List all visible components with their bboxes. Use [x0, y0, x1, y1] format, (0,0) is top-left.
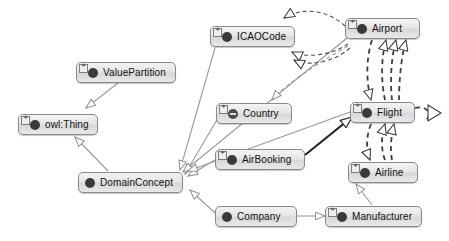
class-node-label: Country — [243, 108, 279, 119]
edge-flight-airline-3 — [391, 124, 394, 160]
owl-class-icon — [88, 68, 98, 78]
class-node-label: DomainConcept — [100, 177, 173, 188]
class-node-label: Airline — [375, 167, 404, 178]
edge-domainconcept-owlthing — [75, 137, 108, 171]
edge-manufacturer-airline — [356, 184, 372, 205]
edge-flight-self-loop — [415, 107, 429, 121]
edge-airport-flight-3 — [391, 40, 396, 100]
edge-icaocode-domainconcept — [180, 48, 215, 170]
expand-icon[interactable] — [353, 104, 362, 113]
class-node-manufacturer[interactable]: Manufacturer — [325, 206, 422, 227]
owl-class-icon — [357, 24, 367, 34]
owl-class-icon — [362, 108, 372, 118]
class-node-label: ValuePartition — [103, 67, 166, 78]
expand-icon[interactable] — [348, 20, 357, 29]
owl-class-icon — [222, 212, 232, 222]
owl-defined-class-icon — [228, 109, 238, 119]
edge-airport-country — [272, 46, 348, 100]
class-node-country[interactable]: Country — [216, 103, 292, 124]
expand-icon[interactable] — [218, 151, 227, 160]
owl-class-icon — [337, 212, 347, 222]
edge-airport-flight-1 — [367, 40, 372, 100]
class-node-label: Airport — [372, 23, 402, 34]
owl-class-icon — [30, 120, 40, 130]
expand-icon[interactable] — [79, 64, 88, 73]
owl-class-icon — [222, 32, 232, 42]
class-node-label: AirBooking — [242, 154, 291, 165]
expand-icon[interactable] — [328, 208, 337, 217]
edge-flight-airline-1 — [367, 124, 371, 160]
edge-airport-flight-2 — [382, 40, 386, 100]
class-node-owlthing[interactable]: owl:Thing — [18, 114, 98, 135]
edge-flight-airline-2 — [382, 124, 385, 160]
edge-airport-flight-4 — [399, 40, 406, 100]
class-node-label: owl:Thing — [45, 119, 89, 130]
expand-icon[interactable] — [219, 105, 228, 114]
class-node-airport[interactable]: Airport — [345, 18, 420, 39]
class-node-flight[interactable]: Flight — [350, 102, 415, 123]
ontology-diagram-canvas[interactable]: ICAOCode Airport ValuePartition Country … — [0, 0, 449, 241]
edge-company-domainconcept — [190, 190, 215, 213]
expand-icon[interactable] — [213, 28, 222, 37]
class-node-label: Company — [237, 211, 281, 222]
class-node-label: Manufacturer — [352, 211, 412, 222]
class-node-label: ICAOCode — [237, 31, 286, 42]
class-node-airline[interactable]: Airline — [348, 162, 418, 183]
class-node-valuepartition[interactable]: ValuePartition — [76, 62, 176, 83]
edge-airbooking-flight — [305, 117, 352, 155]
class-node-domainconcept[interactable]: DomainConcept — [78, 172, 183, 193]
expand-icon[interactable] — [21, 116, 30, 125]
edge-flight-self-loop-arrowhead — [428, 105, 441, 121]
class-node-company[interactable]: Company — [215, 206, 297, 227]
edge-valuepartition-owlthing — [86, 83, 118, 108]
owl-class-icon — [85, 178, 95, 188]
owl-class-icon — [360, 168, 370, 178]
class-node-icaocode[interactable]: ICAOCode — [210, 26, 295, 47]
expand-icon[interactable] — [351, 164, 360, 173]
edge-airport-icaocode-2 — [292, 44, 348, 55]
class-node-label: Flight — [377, 107, 402, 118]
owl-class-icon — [227, 155, 237, 165]
class-node-airbooking[interactable]: AirBooking — [215, 149, 305, 170]
edge-airport-icaocode-1 — [284, 11, 345, 26]
